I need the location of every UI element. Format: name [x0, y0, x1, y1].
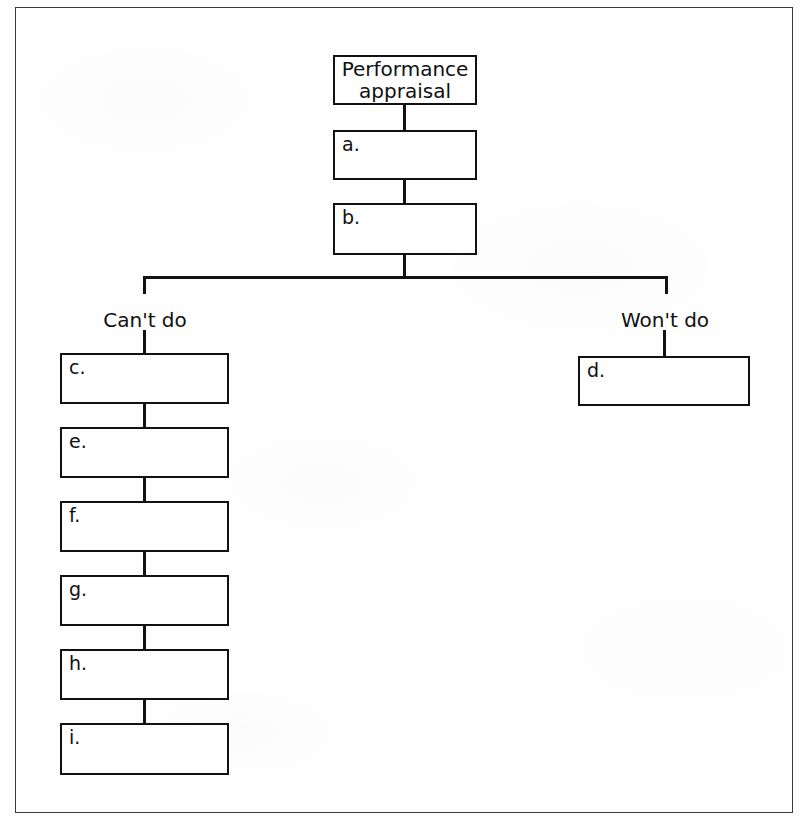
- node-d-label: d.: [587, 360, 605, 382]
- connector-wont-do-to-d: [663, 330, 666, 357]
- connector-split-to-wont-do: [665, 276, 668, 294]
- node-d[interactable]: d.: [578, 356, 750, 406]
- node-g[interactable]: g.: [60, 575, 229, 626]
- node-c-label: c.: [69, 357, 86, 379]
- connector-root-to-a: [403, 105, 406, 130]
- node-h[interactable]: h.: [60, 649, 229, 700]
- node-b[interactable]: b.: [333, 203, 477, 255]
- node-h-label: h.: [69, 653, 87, 675]
- node-i-label: i.: [69, 727, 80, 749]
- node-e-label: e.: [69, 431, 87, 453]
- connector-g-to-h: [143, 625, 146, 650]
- node-f-label: f.: [69, 505, 80, 527]
- node-a[interactable]: a.: [333, 130, 477, 180]
- node-a-label: a.: [342, 134, 360, 156]
- connector-a-to-b: [403, 180, 406, 203]
- node-performance-appraisal-title: Performance appraisal: [335, 57, 475, 103]
- branch-label-wont-do: Won't do: [621, 308, 709, 332]
- connector-c-to-e: [143, 403, 146, 428]
- connector-split-to-cant-do: [143, 276, 146, 294]
- connector-f-to-g: [143, 551, 146, 576]
- connector-h-to-i: [143, 699, 146, 724]
- connector-horizontal-split: [143, 276, 667, 279]
- diagram-page: Performance appraisal a. b. Can't do Won…: [0, 0, 806, 832]
- connector-e-to-f: [143, 477, 146, 502]
- node-f[interactable]: f.: [60, 501, 229, 552]
- node-g-label: g.: [69, 579, 87, 601]
- node-b-label: b.: [342, 207, 360, 229]
- node-performance-appraisal[interactable]: Performance appraisal: [333, 55, 477, 105]
- node-c[interactable]: c.: [60, 353, 229, 404]
- node-e[interactable]: e.: [60, 427, 229, 478]
- connector-cant-do-to-c: [143, 330, 146, 354]
- branch-label-cant-do: Can't do: [103, 308, 187, 332]
- node-i[interactable]: i.: [60, 723, 229, 775]
